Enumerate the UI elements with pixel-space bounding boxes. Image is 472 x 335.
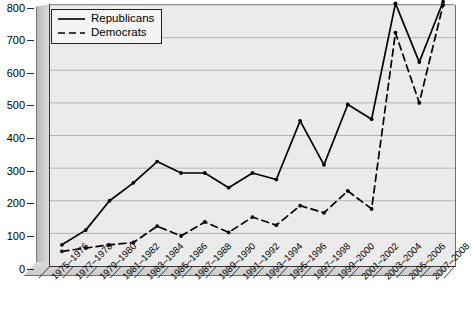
data-point	[322, 163, 326, 167]
y-axis-tick	[27, 105, 34, 106]
data-point	[227, 186, 231, 190]
legend-label-republicans: Republicans	[91, 13, 154, 25]
legend-item-democrats: Democrats	[57, 26, 154, 40]
data-point	[441, 0, 445, 4]
data-point	[84, 228, 88, 232]
data-point	[60, 243, 64, 247]
data-point	[251, 215, 255, 219]
data-point	[441, 3, 445, 7]
data-point	[394, 31, 398, 35]
data-point	[60, 249, 64, 253]
y-axis-label: 200	[7, 197, 25, 209]
y-axis-tick	[27, 171, 34, 172]
data-point	[131, 181, 135, 185]
dashed-line-key	[57, 28, 86, 38]
plot-area	[49, 5, 456, 267]
chart-left-wall	[36, 4, 50, 269]
y-axis-label: 800	[7, 2, 25, 14]
x-axis: 1975–19761977–19781979–19801981–19821983…	[0, 268, 463, 335]
data-point	[322, 211, 326, 215]
y-axis: 0100200300400500600700800	[0, 0, 34, 280]
plot-svg	[50, 5, 455, 266]
data-point	[417, 60, 421, 64]
y-axis-tick	[27, 236, 34, 237]
data-point	[346, 103, 350, 107]
data-point	[274, 223, 278, 227]
data-point	[179, 234, 183, 238]
chart-legend: Republicans Democrats	[51, 9, 162, 44]
y-axis-tick	[27, 8, 34, 9]
y-axis-label: 700	[7, 34, 25, 46]
y-axis-label: 400	[7, 132, 25, 144]
data-point	[155, 160, 159, 164]
data-point	[155, 224, 159, 228]
data-point	[227, 230, 231, 234]
data-point	[298, 119, 302, 123]
y-axis-label: 600	[7, 67, 25, 79]
data-point	[203, 220, 207, 224]
data-point	[370, 207, 374, 211]
data-point	[179, 171, 183, 175]
data-point	[394, 1, 398, 5]
data-point	[274, 178, 278, 182]
data-point	[108, 199, 112, 203]
data-point	[346, 189, 350, 193]
y-axis-label: 500	[7, 99, 25, 111]
data-point	[203, 171, 207, 175]
y-axis-label: 100	[7, 230, 25, 242]
y-axis-tick	[27, 138, 34, 139]
y-axis-label: 300	[7, 165, 25, 177]
data-point	[251, 171, 255, 175]
y-axis-tick	[27, 203, 34, 204]
y-axis-tick	[27, 73, 34, 74]
data-point	[417, 101, 421, 105]
solid-line-key	[57, 14, 86, 24]
legend-label-democrats: Democrats	[91, 27, 147, 39]
data-point	[298, 204, 302, 208]
data-point	[370, 117, 374, 121]
legend-item-republicans: Republicans	[57, 12, 154, 26]
y-axis-tick	[27, 40, 34, 41]
